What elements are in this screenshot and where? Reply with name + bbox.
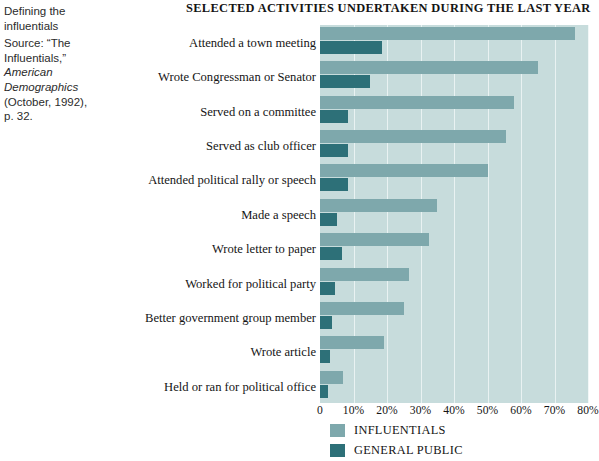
x-tick-label: 50%: [477, 404, 498, 417]
legend: INFLUENTIALS GENERAL PUBLIC: [330, 421, 463, 461]
category-label: Wrote article: [120, 345, 316, 360]
bar-influentials[interactable]: [320, 164, 488, 177]
legend-item-general-public[interactable]: GENERAL PUBLIC: [330, 441, 463, 459]
gridline-20: [387, 25, 388, 403]
margin-note: Defining the influentials Source: “The I…: [4, 4, 116, 124]
gridline-80: [588, 25, 589, 403]
bar-general-public[interactable]: [320, 316, 332, 329]
bar-influentials[interactable]: [320, 199, 437, 212]
bar-influentials[interactable]: [320, 61, 538, 74]
gridline-40: [454, 25, 455, 403]
bar-general-public[interactable]: [320, 213, 337, 226]
bar-influentials[interactable]: [320, 27, 575, 40]
category-label: Attended a town meeting: [120, 36, 316, 51]
x-tick-label: 60%: [510, 404, 531, 417]
bar-influentials[interactable]: [320, 130, 506, 143]
bar-influentials[interactable]: [320, 302, 404, 315]
category-label: Better government group member: [120, 311, 316, 326]
margin-note-source-line-4: p. 32.: [4, 109, 116, 124]
bar-influentials[interactable]: [320, 336, 384, 349]
margin-note-heading: Defining the influentials: [4, 4, 116, 33]
legend-label-influentials: INFLUENTIALS: [354, 423, 446, 438]
x-tick-label: 40%: [443, 404, 464, 417]
bar-influentials[interactable]: [320, 371, 343, 384]
value-axis: 010%20%30%40%50%60%70%80%: [320, 404, 588, 420]
plot-area: [320, 25, 588, 403]
bar-influentials[interactable]: [320, 96, 514, 109]
category-label: Attended political rally or speech: [120, 173, 316, 188]
category-label: Made a speech: [120, 208, 316, 223]
legend-item-influentials[interactable]: INFLUENTIALS: [330, 421, 463, 439]
bar-influentials[interactable]: [320, 233, 429, 246]
gridline-60: [521, 25, 522, 403]
bar-general-public[interactable]: [320, 41, 382, 54]
x-tick-label: 80%: [577, 404, 598, 417]
gridline-70: [555, 25, 556, 403]
gridline-50: [488, 25, 489, 403]
bar-general-public[interactable]: [320, 385, 328, 398]
margin-note-source-italic-2: Demographics: [4, 80, 116, 95]
bar-general-public[interactable]: [320, 110, 348, 123]
x-tick-label: 0: [317, 404, 323, 417]
x-tick-label: 20%: [376, 404, 397, 417]
bar-general-public[interactable]: [320, 282, 335, 295]
category-label: Worked for political party: [120, 277, 316, 292]
chart-title: SELECTED ACTIVITIES UNDERTAKEN DURING TH…: [186, 1, 586, 16]
legend-swatch-general-public: [330, 444, 345, 457]
category-label: Wrote Congressman or Senator: [120, 70, 316, 85]
bar-influentials[interactable]: [320, 268, 409, 281]
legend-label-general-public: GENERAL PUBLIC: [354, 443, 463, 458]
gridline-30: [421, 25, 422, 403]
margin-note-source-italic-1: American: [4, 65, 116, 80]
margin-note-source-line-2: Influentials,”: [4, 51, 116, 66]
legend-swatch-influentials: [330, 424, 345, 437]
category-label: Served as club officer: [120, 139, 316, 154]
category-label: Held or ran for political office: [120, 380, 316, 395]
bar-general-public[interactable]: [320, 350, 330, 363]
margin-note-source-line-3: (October, 1992),: [4, 95, 116, 110]
bar-general-public[interactable]: [320, 178, 348, 191]
margin-note-source-line-1: Source: “The: [4, 36, 116, 51]
x-tick-label: 30%: [410, 404, 431, 417]
x-tick-label: 10%: [343, 404, 364, 417]
category-axis: Attended a town meetingWrote Congressman…: [120, 25, 316, 403]
x-tick-label: 70%: [544, 404, 565, 417]
bar-general-public[interactable]: [320, 144, 348, 157]
bar-general-public[interactable]: [320, 247, 342, 260]
category-label: Served on a committee: [120, 105, 316, 120]
bar-general-public[interactable]: [320, 75, 370, 88]
category-label: Wrote letter to paper: [120, 242, 316, 257]
